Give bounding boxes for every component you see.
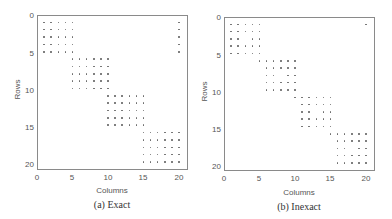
nonzero-dot <box>107 117 109 119</box>
nonzero-dot <box>50 36 52 38</box>
nonzero-dot <box>230 38 232 40</box>
nonzero-dot <box>308 118 310 120</box>
nonzero-dot <box>287 67 289 69</box>
nonzero-dot <box>114 117 116 119</box>
nonzero-dot <box>136 117 138 119</box>
panel-exact: Rows 0 5 10 15 20 0 5 10 15 20 Columns (… <box>0 0 196 219</box>
nonzero-dot <box>107 95 109 97</box>
nonzero-dot <box>114 102 116 104</box>
nonzero-dot <box>294 67 296 69</box>
nonzero-dot <box>50 22 52 24</box>
nonzero-dot <box>351 133 353 135</box>
nonzero-dot <box>252 38 254 40</box>
nonzero-dot <box>100 58 102 60</box>
nonzero-dot <box>351 140 353 142</box>
nonzero-dot <box>316 97 318 99</box>
nonzero-dot <box>178 147 180 149</box>
nonzero-dot <box>178 161 180 163</box>
nonzero-dot <box>171 161 173 163</box>
x-tick-10: 10 <box>100 174 116 182</box>
nonzero-dot <box>121 124 123 126</box>
nonzero-dot <box>280 89 282 91</box>
nonzero-dot <box>178 51 180 53</box>
panel-inexact: Rows 0 5 10 15 20 0 5 10 15 20 Columns (… <box>196 0 392 219</box>
nonzero-dot <box>237 45 239 47</box>
y-tick-15: 15 <box>20 124 34 132</box>
nonzero-dot <box>93 58 95 60</box>
nonzero-dot <box>43 22 45 24</box>
y-tick-5: 5 <box>20 50 34 58</box>
nonzero-dot <box>294 97 296 99</box>
nonzero-dot <box>237 24 239 26</box>
nonzero-dot <box>164 147 166 149</box>
nonzero-dot <box>107 73 109 75</box>
nonzero-dot <box>129 95 131 97</box>
nonzero-dot <box>114 124 116 126</box>
nonzero-dot <box>100 66 102 68</box>
nonzero-dot <box>294 89 296 91</box>
nonzero-dot <box>164 139 166 141</box>
x-tick-15: 15 <box>322 175 338 183</box>
nonzero-dot <box>358 162 360 164</box>
nonzero-dot <box>323 111 325 113</box>
nonzero-dot <box>100 73 102 75</box>
x-tick-10: 10 <box>287 175 303 183</box>
nonzero-dot <box>323 118 325 120</box>
nonzero-dot <box>316 118 318 120</box>
nonzero-dot <box>301 97 303 99</box>
x-axis-label: Columns <box>269 188 329 197</box>
y-tick-20: 20 <box>207 163 221 171</box>
nonzero-dot <box>358 140 360 142</box>
x-tick-20: 20 <box>171 174 187 182</box>
nonzero-dot <box>351 162 353 164</box>
nonzero-dot <box>93 66 95 68</box>
nonzero-dot <box>107 102 109 104</box>
nonzero-dot <box>365 140 367 142</box>
nonzero-dot <box>308 111 310 113</box>
nonzero-dot <box>43 51 45 53</box>
nonzero-dot <box>50 44 52 46</box>
nonzero-dot <box>178 139 180 141</box>
nonzero-dot <box>93 80 95 82</box>
nonzero-dot <box>178 22 180 24</box>
nonzero-dot <box>43 36 45 38</box>
nonzero-dot <box>171 147 173 149</box>
nonzero-dot <box>245 24 247 26</box>
nonzero-dot <box>237 38 239 40</box>
nonzero-dot <box>171 139 173 141</box>
nonzero-dot <box>230 24 232 26</box>
nonzero-dot <box>178 36 180 38</box>
nonzero-dot <box>287 89 289 91</box>
nonzero-dot <box>287 75 289 77</box>
nonzero-dot <box>164 161 166 163</box>
nonzero-dot <box>136 102 138 104</box>
nonzero-dot <box>280 67 282 69</box>
nonzero-dot <box>65 51 67 53</box>
nonzero-dot <box>365 24 367 26</box>
nonzero-dot <box>129 124 131 126</box>
x-tick-5: 5 <box>64 174 80 182</box>
nonzero-dot <box>294 60 296 62</box>
x-axis-label: Columns <box>82 186 142 195</box>
y-tick-5: 5 <box>207 52 221 60</box>
plot-area-inexact <box>224 17 375 171</box>
nonzero-dot <box>93 73 95 75</box>
nonzero-dot <box>287 60 289 62</box>
nonzero-dot <box>358 148 360 150</box>
y-tick-10: 10 <box>20 87 34 95</box>
y-tick-20: 20 <box>20 161 34 169</box>
x-tick-0: 0 <box>216 175 232 183</box>
x-tick-15: 15 <box>135 174 151 182</box>
nonzero-dot <box>245 45 247 47</box>
nonzero-dot <box>100 80 102 82</box>
nonzero-dot <box>121 102 123 104</box>
nonzero-dot <box>107 58 109 60</box>
x-tick-20: 20 <box>358 175 374 183</box>
nonzero-dot <box>308 97 310 99</box>
nonzero-dot <box>65 36 67 38</box>
nonzero-dot <box>178 44 180 46</box>
nonzero-dot <box>365 148 367 150</box>
nonzero-dot <box>230 45 232 47</box>
y-tick-10: 10 <box>207 89 221 97</box>
y-tick-15: 15 <box>207 126 221 134</box>
